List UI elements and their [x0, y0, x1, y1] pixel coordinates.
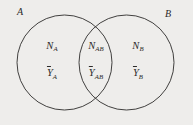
set-label-a: A [17, 7, 23, 17]
set-label-b: B [165, 9, 171, 19]
overbar-b: Y [133, 66, 139, 79]
overbar-rule-b [132, 66, 137, 67]
mean-subscript-ab: AB [95, 73, 104, 80]
mean-symbol-a: Y [47, 66, 53, 79]
overbar-rule-ab [88, 66, 93, 67]
mean-symbol-ab: Y [89, 66, 95, 79]
count-label-b: NB [132, 41, 143, 52]
set-circle-a [17, 15, 112, 110]
mean-subscript-b: B [139, 73, 143, 80]
mean-label-ab: YAB [89, 66, 103, 79]
set-circle-b [79, 15, 174, 110]
mean-symbol-b: Y [133, 66, 139, 79]
count-subscript-ab: AB [95, 45, 104, 52]
count-label-ab: NAB [88, 41, 104, 52]
count-subscript-b: B [139, 45, 143, 52]
overbar-rule-a [46, 66, 51, 67]
count-label-a: NA [46, 41, 57, 52]
mean-label-b: YB [133, 66, 143, 79]
count-subscript-a: A [53, 45, 57, 52]
venn-diagram: A B NA NAB NB YA YAB YB [0, 0, 193, 125]
mean-subscript-a: A [53, 73, 57, 80]
mean-label-a: YA [47, 66, 57, 79]
count-symbol-ab: N [88, 40, 95, 51]
overbar-ab: Y [89, 66, 95, 79]
overbar-a: Y [47, 66, 53, 79]
count-symbol-b: N [132, 40, 139, 51]
count-symbol-a: N [46, 40, 53, 51]
